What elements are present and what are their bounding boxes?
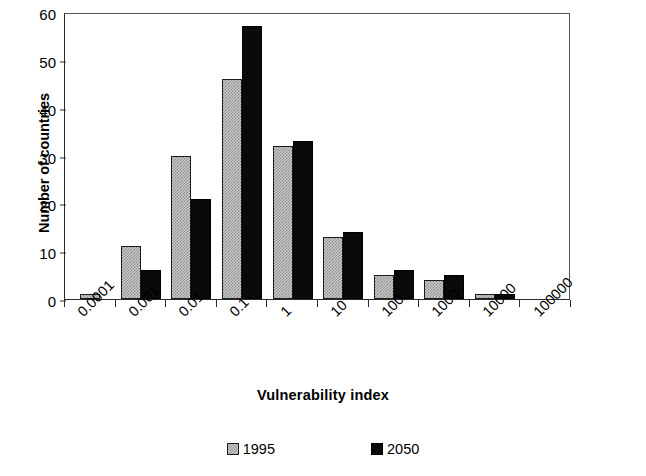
bar-group [267, 14, 318, 299]
x-axis-tick-mark [418, 300, 419, 307]
bar-1995-0.01 [171, 156, 191, 300]
x-axis-tick-mark [519, 300, 520, 307]
x-axis-tick-label: 1 [278, 303, 294, 319]
bar-group [116, 14, 167, 299]
bar-group [65, 14, 116, 299]
plot-area: 0102030405060 [64, 13, 570, 300]
bar-series-container [65, 14, 569, 299]
chart-legend: 19952050 [0, 441, 646, 457]
x-axis-tick-mark [368, 300, 369, 307]
bar-2050-0.1 [242, 26, 262, 299]
legend-entry-2050[interactable]: 2050 [371, 441, 419, 457]
x-axis-tick-mark [469, 300, 470, 307]
x-axis-title: Vulnerability index [0, 387, 646, 403]
bar-group [470, 14, 521, 299]
bar-2050-1 [293, 141, 313, 299]
bar-group [369, 14, 420, 299]
bar-2050-0.01 [191, 199, 211, 299]
bar-group [166, 14, 217, 299]
x-axis-tick-label: 10 [328, 298, 350, 320]
solid-black-swatch [371, 443, 383, 455]
bar-group [520, 14, 571, 299]
legend-label: 2050 [387, 441, 419, 457]
bar-group [217, 14, 268, 299]
legend-label: 1995 [243, 441, 275, 457]
vulnerability-index-histogram: Number of countries 0102030405060 0.0001… [0, 0, 646, 476]
x-axis-tick-mark [64, 300, 65, 307]
x-axis-tick-mark [317, 300, 318, 307]
x-axis-tick-mark [570, 300, 571, 307]
bar-group [419, 14, 470, 299]
bar-1995-1 [273, 146, 293, 299]
checkered-gray-swatch [227, 443, 239, 455]
y-axis-tick-mark [60, 301, 66, 302]
bar-group [318, 14, 369, 299]
bar-1995-0.001 [121, 246, 141, 299]
y-axis-tick-label: 60 [39, 7, 65, 22]
x-axis-tick-mark [216, 300, 217, 307]
bar-2050-10 [343, 232, 363, 299]
x-axis-tick-mark [115, 300, 116, 307]
x-axis-tick-mark [165, 300, 166, 307]
bar-1995-0.1 [222, 79, 242, 299]
bar-1995-10 [323, 237, 343, 299]
legend-entry-1995[interactable]: 1995 [227, 441, 275, 457]
x-axis-tick-mark [266, 300, 267, 307]
